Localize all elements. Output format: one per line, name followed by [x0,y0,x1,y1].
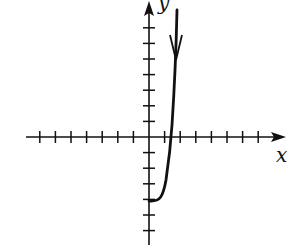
graph: y x [0,0,292,245]
y-axis-label: y [157,0,170,15]
x-axis-label: x [276,143,287,167]
